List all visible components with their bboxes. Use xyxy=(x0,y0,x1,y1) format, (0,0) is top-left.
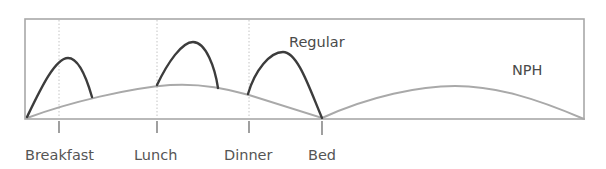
nph-curve xyxy=(27,85,584,119)
insulin-action-chart: Regular NPH Breakfast Lunch Dinner Bed xyxy=(0,0,606,169)
bed-label: Bed xyxy=(308,147,336,163)
dinner-label: Dinner xyxy=(224,147,272,163)
regular-lunch-curve xyxy=(157,42,218,88)
regular-label: Regular xyxy=(289,34,345,50)
breakfast-label: Breakfast xyxy=(25,147,94,163)
nph-label: NPH xyxy=(512,62,543,78)
lunch-label: Lunch xyxy=(134,147,177,163)
regular-dinner-curve xyxy=(248,52,322,118)
